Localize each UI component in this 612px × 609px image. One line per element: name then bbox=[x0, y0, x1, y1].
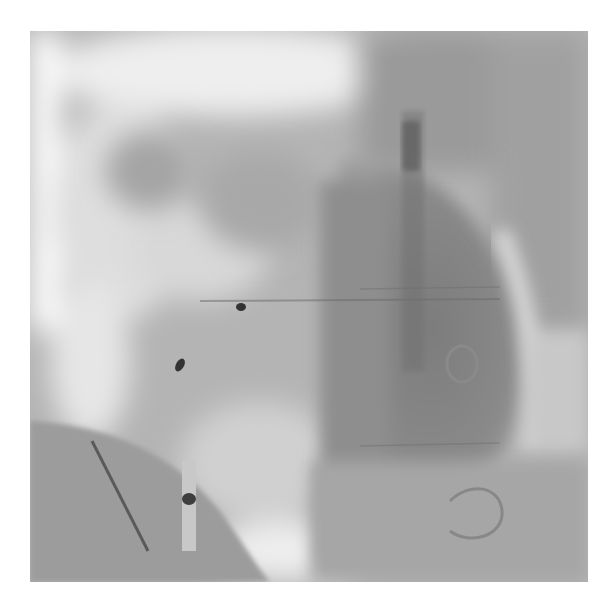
fluoroscopy-image bbox=[30, 31, 588, 582]
electrode-marker bbox=[236, 303, 246, 311]
lower-abdomen-shadow bbox=[310, 461, 588, 582]
xray-rendering bbox=[30, 31, 588, 582]
valve-device bbox=[402, 121, 420, 171]
electrode-marker bbox=[182, 493, 196, 505]
sheath-tube bbox=[182, 461, 196, 551]
